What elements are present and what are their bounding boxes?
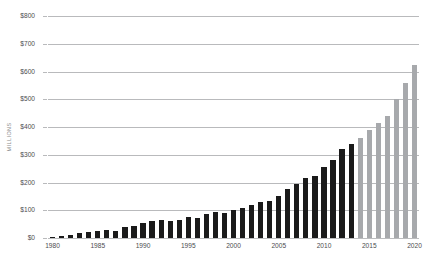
y-axis-tick-label: $600 — [0, 68, 35, 75]
x-axis-tick-label: 1980 — [33, 242, 73, 249]
y-axis-tick-mark — [43, 72, 47, 73]
bar — [367, 130, 372, 238]
y-axis-title-label: MILLIONS — [6, 102, 12, 172]
y-axis-tick-mark — [43, 99, 47, 100]
y-axis-tick-mark — [43, 16, 47, 17]
y-axis-tick-mark — [43, 210, 47, 211]
bar — [240, 208, 245, 238]
y-axis-tick-label: $800 — [0, 12, 35, 19]
bar — [195, 218, 200, 238]
y-axis-tick-label: $400 — [0, 123, 35, 130]
bar — [140, 223, 145, 238]
y-axis-tick-label: $300 — [0, 151, 35, 158]
y-axis-tick-label: $500 — [0, 95, 35, 102]
x-axis-line — [48, 238, 419, 239]
plot-area: $800$700$600$500$400$300$200$100$0 — [48, 16, 419, 238]
bar — [349, 144, 354, 238]
bar — [339, 149, 344, 238]
x-axis-tick-label: 2010 — [304, 242, 344, 249]
bar — [258, 202, 263, 238]
x-axis-tick-label: 2000 — [214, 242, 254, 249]
bar — [177, 220, 182, 238]
bar — [294, 184, 299, 238]
x-axis-tick-label: 1995 — [168, 242, 208, 249]
x-axis-tick-label: 2005 — [259, 242, 299, 249]
y-axis-tick-label: $0 — [0, 234, 35, 241]
bar — [159, 220, 164, 238]
y-axis-tick-label: $700 — [0, 40, 35, 47]
bar — [276, 196, 281, 238]
bar — [231, 210, 236, 238]
x-axis-tick-label: 2015 — [349, 242, 389, 249]
bar — [149, 221, 154, 238]
bar — [358, 138, 363, 238]
bar — [131, 226, 136, 238]
bars-layer — [48, 16, 419, 238]
y-axis-tick-label: $100 — [0, 206, 35, 213]
bar-chart: MILLIONS $800$700$600$500$400$300$200$10… — [0, 0, 430, 271]
bar — [312, 176, 317, 238]
bar — [285, 189, 290, 238]
y-axis-tick-label: $200 — [0, 179, 35, 186]
y-axis-tick-mark — [43, 127, 47, 128]
y-axis-tick-mark — [43, 155, 47, 156]
bar — [267, 201, 272, 238]
bar — [412, 65, 417, 238]
bar — [95, 231, 100, 238]
x-axis-tick-label: 1990 — [123, 242, 163, 249]
bar — [113, 231, 118, 238]
y-axis-tick-mark — [43, 44, 47, 45]
bar — [222, 213, 227, 238]
bar — [330, 160, 335, 238]
bar — [394, 99, 399, 238]
bar — [403, 83, 408, 238]
bar — [376, 123, 381, 238]
bar — [186, 217, 191, 238]
bar — [204, 214, 209, 238]
bar — [321, 167, 326, 238]
bar — [168, 221, 173, 238]
bar — [385, 116, 390, 238]
bar — [104, 230, 109, 238]
x-axis-tick-label: 1985 — [78, 242, 118, 249]
bar — [213, 212, 218, 238]
bar — [249, 205, 254, 238]
y-axis-tick-mark — [43, 238, 47, 239]
bar — [303, 178, 308, 238]
bar — [122, 227, 127, 238]
y-axis-tick-mark — [43, 183, 47, 184]
x-axis-tick-label: 2020 — [394, 242, 430, 249]
